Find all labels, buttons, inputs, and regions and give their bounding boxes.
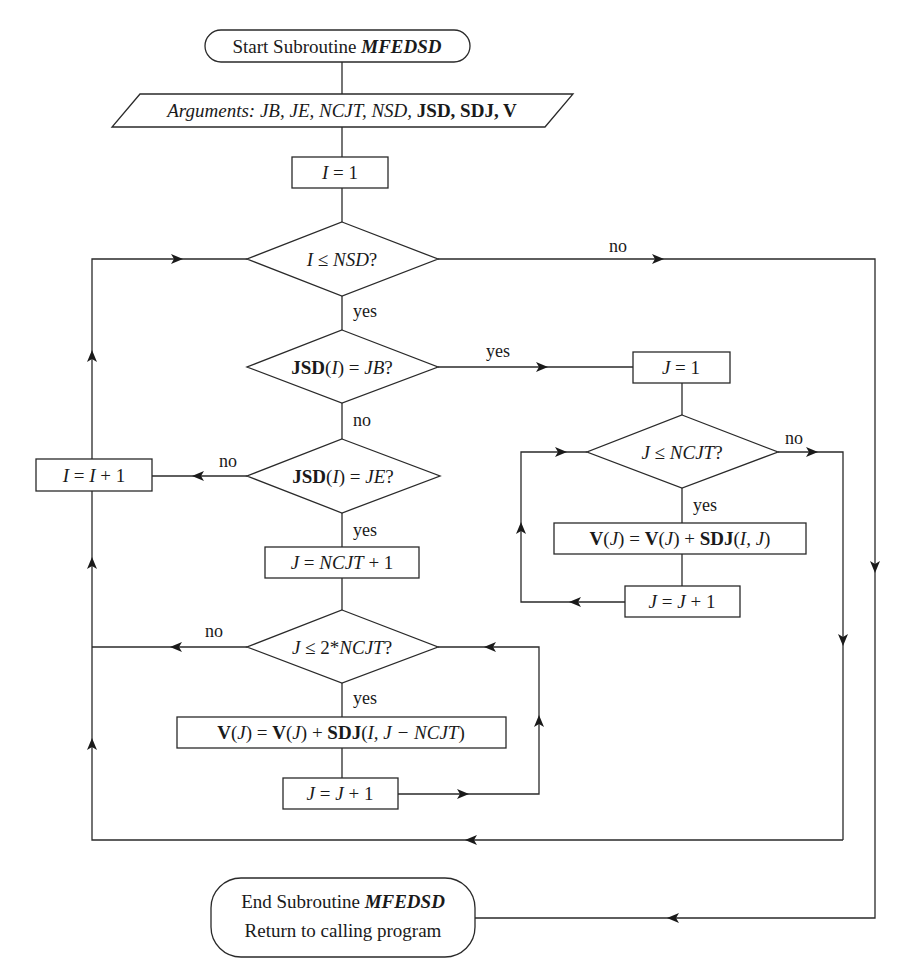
decision-j-le-2ncjt-label: J ≤ 2*NCJT?	[292, 637, 392, 658]
label-cond-j2-no: no	[205, 621, 223, 641]
label-cond-je-yes: yes	[353, 520, 377, 540]
init-i-label: I = 1	[321, 162, 358, 183]
flowchart-canvas: Start Subroutine MFEDSD Arguments: JB, J…	[0, 0, 906, 961]
accumulate-v-begin-label: V(J) = V(J) + SDJ(I, J)	[590, 528, 771, 550]
label-cond-i-no: no	[609, 236, 627, 256]
increment-j2-process: J = J + 1	[283, 778, 398, 809]
label-cond-i-yes: yes	[353, 301, 377, 321]
decision-i-le-nsd: I ≤ NSD?	[247, 222, 438, 296]
edge-left-return-upper	[92, 259, 247, 459]
decision-j-le-ncjt: J ≤ NCJT?	[587, 415, 778, 488]
label-cond-je-no: no	[219, 451, 237, 471]
increment-i-process: I = I + 1	[36, 459, 152, 491]
arguments-io: Arguments: JB, JE, NCJT, NSD, JSD, SDJ, …	[112, 94, 573, 127]
label-cond-j1-no: no	[785, 428, 803, 448]
decision-j-le-2ncjt: J ≤ 2*NCJT?	[247, 610, 438, 683]
end-terminal-subtitle: Return to calling program	[245, 920, 442, 941]
decision-jsd-eq-je-label: JSD(I) = JE?	[292, 466, 393, 488]
label-cond-j1-yes: yes	[693, 495, 717, 515]
increment-j2-label: J = J + 1	[307, 783, 374, 804]
end-terminal-shape	[211, 878, 475, 957]
decision-jsd-eq-jb: JSD(I) = JB?	[247, 330, 438, 403]
init-j1-label: J = 1	[662, 357, 700, 378]
init-j1-process: J = 1	[633, 352, 730, 383]
init-j2-label: J = NCJT + 1	[291, 552, 394, 573]
init-j2-process: J = NCJT + 1	[265, 547, 419, 578]
accumulate-v-end-label: V(J) = V(J) + SDJ(I, J − NCJT)	[217, 722, 464, 744]
arguments-io-label: Arguments: JB, JE, NCJT, NSD, JSD, SDJ, …	[165, 100, 517, 121]
label-cond-jb-no: no	[353, 410, 371, 430]
accumulate-v-begin-process: V(J) = V(J) + SDJ(I, J)	[554, 523, 806, 554]
edge-cond-j1-no	[778, 452, 843, 840]
increment-j1-process: J = J + 1	[625, 586, 740, 617]
arrowheads	[87, 254, 880, 923]
end-terminal: End Subroutine MFEDSD Return to calling …	[211, 878, 475, 957]
decision-jsd-eq-jb-label: JSD(I) = JB?	[291, 357, 392, 379]
label-cond-j2-yes: yes	[353, 688, 377, 708]
increment-i-label: I = I + 1	[62, 465, 126, 486]
connectors	[92, 62, 875, 918]
decision-i-le-nsd-label: I ≤ NSD?	[306, 249, 378, 270]
decision-jsd-eq-je: JSD(I) = JE?	[247, 439, 440, 513]
decision-j-le-ncjt-label: J ≤ NCJT?	[641, 442, 722, 463]
increment-j1-label: J = J + 1	[649, 591, 716, 612]
label-cond-jb-yes: yes	[486, 341, 510, 361]
start-terminal: Start Subroutine MFEDSD	[205, 30, 470, 62]
end-terminal-title: End Subroutine MFEDSD	[241, 891, 445, 912]
start-terminal-label: Start Subroutine MFEDSD	[232, 36, 441, 57]
init-i-process: I = 1	[292, 157, 388, 188]
accumulate-v-end-process: V(J) = V(J) + SDJ(I, J − NCJT)	[177, 717, 506, 748]
